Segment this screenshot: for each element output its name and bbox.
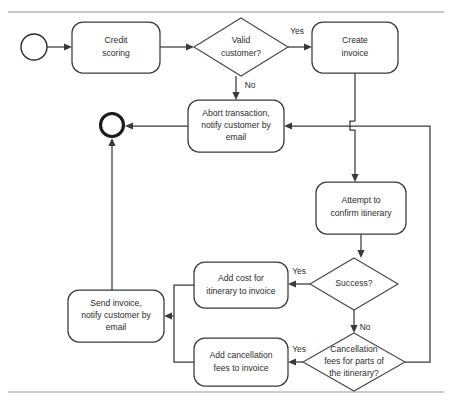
start-event[interactable] <box>21 34 47 60</box>
node-cancellation-fees-line-2: fees for parts of <box>324 356 384 366</box>
node-add-cancellation-line-2: fees to invoice <box>214 363 269 373</box>
end-event[interactable] <box>101 114 124 137</box>
edge-label-cancellation-yes: Yes <box>292 344 306 354</box>
node-success[interactable]: Success? <box>310 258 398 310</box>
node-add-cost-line-2: itinerary to invoice <box>206 286 275 296</box>
edge-start-to-credit-scoring <box>47 43 72 50</box>
node-abort-transaction-line-1: Abort transaction, <box>202 108 269 118</box>
node-valid-customer-line-1: Valid <box>232 35 251 45</box>
edge-credit-scoring-to-valid-customer <box>160 43 194 50</box>
node-send-invoice-line-3: email <box>106 322 127 332</box>
node-valid-customer[interactable]: Valid customer? <box>194 18 288 76</box>
edge-label-success-yes: Yes <box>292 266 306 276</box>
node-abort-transaction-line-2: notify customer by <box>201 120 271 130</box>
node-valid-customer-line-2: customer? <box>221 48 261 58</box>
node-create-invoice-line-2: invoice <box>342 48 369 58</box>
node-attempt-confirm-itinerary[interactable]: Attempt to confirm itinerary <box>316 182 406 234</box>
node-attempt-confirm-line-2: confirm itinerary <box>330 208 392 218</box>
edge-cancellation-yes-to-add-cancellation <box>288 358 303 365</box>
edge-attempt-confirm-to-success <box>357 234 364 258</box>
node-send-invoice[interactable]: Send invoice, notify customer by email <box>68 290 164 342</box>
node-cancellation-fees-line-1: Cancellation <box>330 344 378 354</box>
node-send-invoice-line-2: notify customer by <box>81 310 151 320</box>
node-create-invoice[interactable]: Create invoice <box>312 22 398 73</box>
node-add-cost-line-1: Add cost for <box>218 273 264 283</box>
edge-create-invoice-to-attempt-confirm <box>350 73 359 182</box>
edge-valid-customer-yes-to-create-invoice <box>288 43 312 50</box>
edge-success-no-to-cancellation-fees <box>350 310 357 333</box>
node-success-label: Success? <box>335 278 372 288</box>
node-send-invoice-line-1: Send invoice, <box>90 298 142 308</box>
edge-add-steps-to-send-invoice <box>164 285 194 362</box>
node-credit-scoring[interactable]: Credit scoring <box>72 22 160 73</box>
node-attempt-confirm-line-1: Attempt to <box>341 195 380 205</box>
node-credit-scoring-line-2: scoring <box>102 48 130 58</box>
node-abort-transaction[interactable]: Abort transaction, notify customer by em… <box>188 100 284 152</box>
edge-valid-customer-no-to-abort-transaction <box>232 76 239 100</box>
node-cancellation-fees-line-3: the itinerary? <box>329 368 379 378</box>
flowchart-canvas: Credit scoring Valid customer? Create in… <box>0 0 452 410</box>
node-create-invoice-line-1: Create <box>342 35 368 45</box>
node-abort-transaction-line-3: email <box>226 132 247 142</box>
node-add-cost-for-itinerary[interactable]: Add cost for itinerary to invoice <box>194 262 288 308</box>
edge-label-valid-customer-no: No <box>245 80 256 90</box>
edge-send-invoice-to-end-event <box>108 138 115 290</box>
edge-success-yes-to-add-cost <box>288 280 310 287</box>
node-add-cancellation-fees[interactable]: Add cancellation fees to invoice <box>194 338 288 386</box>
node-add-cancellation-line-1: Add cancellation <box>209 350 272 360</box>
edge-label-valid-customer-yes: Yes <box>290 26 304 36</box>
node-credit-scoring-line-1: Credit <box>105 35 129 45</box>
edge-label-success-no: No <box>360 322 371 332</box>
node-cancellation-fees[interactable]: Cancellation fees for parts of the itine… <box>303 333 405 391</box>
flowchart-page: Credit scoring Valid customer? Create in… <box>0 0 452 410</box>
edge-abort-transaction-to-end-event <box>125 122 188 129</box>
